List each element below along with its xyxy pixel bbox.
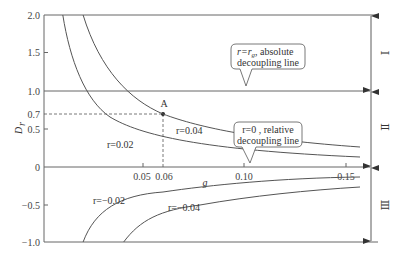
decoupling-chart: 2.0 1.5 1.0 0.7 0.5 0 −0.5 −1.0 D r 0.05… xyxy=(0,0,398,258)
svg-text:decoupling line: decoupling line xyxy=(237,135,299,146)
svg-text:D: D xyxy=(13,126,24,135)
callout-absolute-decoupling: r=rg, absolute decoupling line xyxy=(231,44,305,86)
x-tick-labels: 0.05 0.06 0.10 0.15 xyxy=(133,171,355,182)
x-tick-0.05: 0.05 xyxy=(133,171,151,182)
y-tick-2.0: 2.0 xyxy=(28,10,41,21)
callout-relative-decoupling: r=0 , relative decoupling line xyxy=(234,122,302,163)
axes xyxy=(44,15,378,242)
label-r-0.04: r=0.04 xyxy=(176,125,202,136)
curve-labels: r=0.02 r=0.04 r=−0.02 r=−0.04 xyxy=(93,125,202,213)
x-tick-0.10: 0.10 xyxy=(235,171,253,182)
point-a-label: A xyxy=(160,98,168,109)
curve-r-0.04 xyxy=(83,15,360,147)
region-label-3: Ⅲ xyxy=(379,200,391,211)
y-tick-neg-1.0: −1.0 xyxy=(22,237,40,248)
svg-text:decoupling line: decoupling line xyxy=(237,57,299,68)
curves xyxy=(63,15,360,242)
label-r-0.02: r=0.02 xyxy=(107,139,133,150)
y-tick-1.5: 1.5 xyxy=(28,47,41,58)
x-tick-0.06: 0.06 xyxy=(155,171,173,182)
region-labels: Ⅰ Ⅱ Ⅲ xyxy=(379,51,391,210)
svg-text:r=0 , relative: r=0 , relative xyxy=(242,124,294,135)
x-tick-0.15: 0.15 xyxy=(337,171,355,182)
curve-r-neg-0.04 xyxy=(124,187,360,242)
y-tick-0.7: 0.7 xyxy=(28,109,41,120)
svg-text:r: r xyxy=(16,122,27,126)
y-axis-label: D r xyxy=(13,122,27,135)
region-label-1: Ⅰ xyxy=(379,51,391,55)
curve-r-neg-0.02 xyxy=(83,177,360,242)
y-tick-1.0: 1.0 xyxy=(28,86,41,97)
label-r-neg-0.02: r=−0.02 xyxy=(93,195,125,206)
label-r-neg-0.04: r=−0.04 xyxy=(168,202,200,213)
y-tick-labels: 2.0 1.5 1.0 0.7 0.5 0 −0.5 −1.0 xyxy=(22,10,40,248)
y-tick-neg-0.5: −0.5 xyxy=(22,200,40,211)
curve-r-0.02 xyxy=(63,15,360,157)
point-a-guides xyxy=(44,114,163,167)
y-tick-0: 0 xyxy=(35,162,40,173)
region-label-2: Ⅱ xyxy=(379,123,391,130)
y-tick-0.5: 0.5 xyxy=(28,124,41,135)
